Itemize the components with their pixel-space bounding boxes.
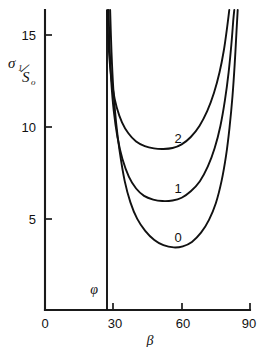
y-axis-title-sigma: σ [8, 55, 16, 71]
chart-svg: 15 10 5 0 30 60 90 β σ 1 / S o φ 2 1 0 [0, 0, 266, 347]
curve-label-0: 0 [174, 230, 181, 245]
x-tick-label-90: 90 [242, 316, 256, 331]
y-tick-label-15: 15 [22, 28, 36, 43]
x-tick-label-30: 30 [108, 316, 122, 331]
y-tick-label-5: 5 [29, 212, 36, 227]
x-axis-title: β [146, 333, 154, 347]
y-axis-title-s-subscript: o [31, 77, 36, 87]
chart-background [0, 0, 266, 347]
curve-label-1: 1 [174, 181, 181, 196]
y-axis-title-s: S [22, 69, 30, 85]
phi-label: φ [90, 282, 98, 297]
chart-figure: 15 10 5 0 30 60 90 β σ 1 / S o φ 2 1 0 [0, 0, 266, 347]
x-tick-label-60: 60 [176, 316, 190, 331]
y-tick-label-10: 10 [22, 120, 36, 135]
x-tick-label-0: 0 [41, 316, 48, 331]
curve-label-2: 2 [174, 131, 181, 146]
